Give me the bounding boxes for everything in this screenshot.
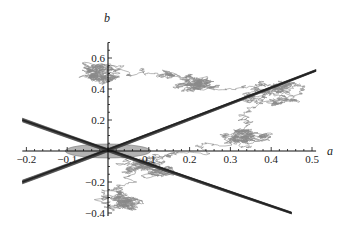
y-tick-label: 0.6	[91, 52, 105, 64]
x-tick-label: 0.3	[224, 153, 238, 165]
random-walk-series	[79, 62, 305, 211]
axes	[22, 43, 316, 217]
x-tick-label: −0.1	[57, 153, 77, 165]
x-tick-label: 0.5	[305, 153, 319, 165]
x-tick-label: −0.2	[16, 153, 36, 165]
y-tick-label: 0.2	[91, 114, 105, 126]
x-axis-label: a	[327, 144, 333, 158]
x-tick-label: 0.4	[264, 153, 278, 165]
y-tick-label: −0.2	[85, 176, 105, 188]
y-tick-label: 0.4	[91, 83, 105, 95]
random-walk-path	[79, 62, 305, 211]
y-tick-label: −0.4	[85, 207, 105, 219]
y-axis-label: b	[104, 11, 110, 25]
stability-boundary-rising-core	[22, 70, 316, 182]
x-tick-label: 0.2	[183, 153, 197, 165]
plot-area: −0.2−0.10.10.20.30.40.50.60.40.2−0.2−0.4…	[0, 0, 345, 230]
x-tick-label: 0.1	[142, 153, 156, 165]
phase-diagram-chart: −0.2−0.10.10.20.30.40.50.60.40.2−0.2−0.4…	[0, 0, 345, 230]
axis-labels: −0.2−0.10.10.20.30.40.50.60.40.2−0.2−0.4…	[16, 11, 333, 219]
